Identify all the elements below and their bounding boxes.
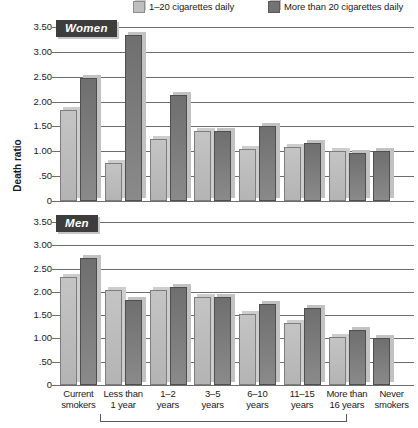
y-axis-tick-label: 1.00 — [2, 332, 52, 343]
legend-item-dark: More than 20 cigarettes daily — [268, 1, 403, 12]
y-axis-tick-label: 3.50 — [2, 21, 52, 32]
x-axis-category-line: Never — [365, 388, 418, 399]
bar — [214, 131, 232, 201]
bar — [170, 95, 188, 201]
bar-group — [284, 27, 323, 201]
panel-women: 0.501.001.502.002.503.003.50 Women — [0, 18, 418, 208]
y-axis-tick-label: 3.00 — [2, 46, 52, 57]
y-axis-tick-label: 3.00 — [2, 239, 52, 250]
panel-men: 0.501.001.502.002.503.003.50 Men — [0, 208, 418, 394]
bar — [80, 78, 98, 201]
plot-area-women: 0.501.001.502.002.503.003.50 — [56, 27, 414, 201]
bar-group — [239, 27, 278, 201]
bar-groups-men — [56, 222, 414, 385]
bar — [329, 151, 347, 201]
bar — [60, 277, 78, 385]
y-axis-tick-label: .50 — [2, 170, 52, 181]
bar-groups-women — [56, 27, 414, 201]
x-axis-category-line: smokers — [365, 399, 418, 410]
bar-group — [105, 27, 144, 201]
bar — [304, 308, 322, 385]
y-axis-tick-label: 2.50 — [2, 71, 52, 82]
bar — [194, 131, 212, 201]
bar — [105, 163, 123, 201]
bar-group — [60, 27, 99, 201]
plot-area-men: 0.501.001.502.002.503.003.50 — [56, 222, 414, 385]
bar-group — [194, 27, 233, 201]
axis-baseline — [56, 201, 414, 202]
bar — [284, 323, 302, 385]
bar — [214, 297, 232, 385]
y-axis-tick-mark — [52, 385, 56, 386]
bar — [194, 297, 212, 385]
legend-item-light: 1–20 cigarettes daily — [133, 1, 234, 12]
y-axis-tick-label: 2.50 — [2, 263, 52, 274]
y-axis-tick-label: 0 — [2, 195, 52, 206]
bar-group — [373, 27, 412, 201]
bar — [239, 314, 257, 385]
legend-label-dark: More than 20 cigarettes daily — [284, 1, 403, 12]
x-axis-category-label: Neversmokers — [365, 388, 418, 410]
years-since-quitting-bracket — [100, 414, 347, 422]
bar-group — [284, 222, 323, 385]
y-axis-tick-label: 0 — [2, 379, 52, 390]
bar — [304, 143, 322, 201]
bar — [105, 290, 123, 385]
y-axis-tick-label: .50 — [2, 356, 52, 367]
bar-group — [60, 222, 99, 385]
bar — [349, 330, 367, 385]
bar-group — [373, 222, 412, 385]
chart-figure: 1–20 cigarettes daily More than 20 cigar… — [0, 0, 418, 428]
bar — [125, 35, 143, 201]
bar-group — [150, 222, 189, 385]
chart-legend: 1–20 cigarettes daily More than 20 cigar… — [0, 0, 418, 18]
bar — [80, 258, 98, 385]
bar-group — [194, 222, 233, 385]
bar — [150, 139, 168, 201]
bar-group — [329, 27, 368, 201]
bar — [373, 151, 391, 201]
panel-badge-men: Men — [56, 215, 98, 232]
bar — [259, 126, 277, 201]
y-axis-tick-label: 1.00 — [2, 145, 52, 156]
legend-swatch-dark-icon — [268, 1, 279, 12]
panel-badge-women: Women — [56, 20, 117, 37]
y-axis-tick-label: 2.00 — [2, 96, 52, 107]
bar — [150, 290, 168, 385]
legend-label-light: 1–20 cigarettes daily — [149, 1, 234, 12]
y-axis-tick-label: 2.00 — [2, 286, 52, 297]
bar — [329, 337, 347, 385]
y-axis-tick-label: 1.50 — [2, 120, 52, 131]
bar — [284, 147, 302, 201]
y-axis-tick-mark — [52, 201, 56, 202]
bar — [259, 304, 277, 385]
x-axis-labels: CurrentsmokersLess than1 year1–2years3–5… — [56, 388, 414, 428]
axis-baseline — [56, 385, 414, 386]
bar-group — [150, 27, 189, 201]
bar-group — [105, 222, 144, 385]
bar-group — [239, 222, 278, 385]
bar — [373, 338, 391, 385]
bar — [349, 153, 367, 201]
bar-group — [329, 222, 368, 385]
y-axis-tick-label: 1.50 — [2, 309, 52, 320]
bar — [125, 300, 143, 385]
bar — [60, 110, 78, 201]
legend-swatch-light-icon — [133, 1, 144, 12]
bar — [170, 287, 188, 385]
bar — [239, 149, 257, 201]
y-axis-tick-label: 3.50 — [2, 216, 52, 227]
